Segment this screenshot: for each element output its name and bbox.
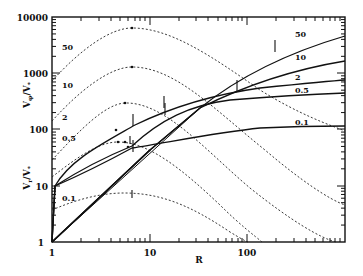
y-tick-1000: 1000 (23, 69, 48, 79)
solid-curve-50 (52, 36, 345, 242)
dotted-label-0.5: 0.5 (62, 133, 76, 143)
solid-label-50: 50 (295, 29, 307, 39)
curve-dots (115, 27, 134, 149)
curve-markers (130, 40, 275, 198)
solid-label-0.1: 0.1 (295, 117, 309, 127)
x-tick-10: 10 (144, 248, 157, 258)
dotted-curve-2 (52, 103, 336, 242)
solid-curve-0.1 (52, 126, 345, 242)
x-tick-100: 100 (238, 248, 257, 258)
solid-curve-2 (52, 80, 345, 242)
chart: 1 10 100 1000 10000 1 10 100 R Vφ/V* Vr/… (0, 0, 363, 276)
dotted-label-0.1: 0.1 (62, 193, 76, 203)
solid-curves (52, 36, 345, 242)
x-axis-label: R (195, 255, 203, 265)
y-tick-10000: 10000 (17, 13, 48, 23)
dotted-curve-50 (52, 28, 345, 131)
dotted-label-10: 10 (62, 80, 74, 90)
y-tick-100: 100 (29, 125, 48, 135)
y-axis-label-top: Vφ/V* (22, 82, 34, 109)
solid-label-2: 2 (295, 72, 301, 82)
dotted-label-2: 2 (62, 112, 68, 122)
dotted-label-50: 50 (62, 42, 74, 52)
y-tick-10: 10 (35, 182, 48, 192)
y-tick-1: 1 (38, 238, 44, 248)
solid-label-0.5: 0.5 (295, 85, 309, 95)
solid-label-10: 10 (295, 52, 307, 62)
x-tick-1: 1 (49, 248, 55, 258)
dotted-curve-0.5 (52, 142, 262, 242)
y-axis-label-bottom: Vr/V* (22, 166, 33, 191)
